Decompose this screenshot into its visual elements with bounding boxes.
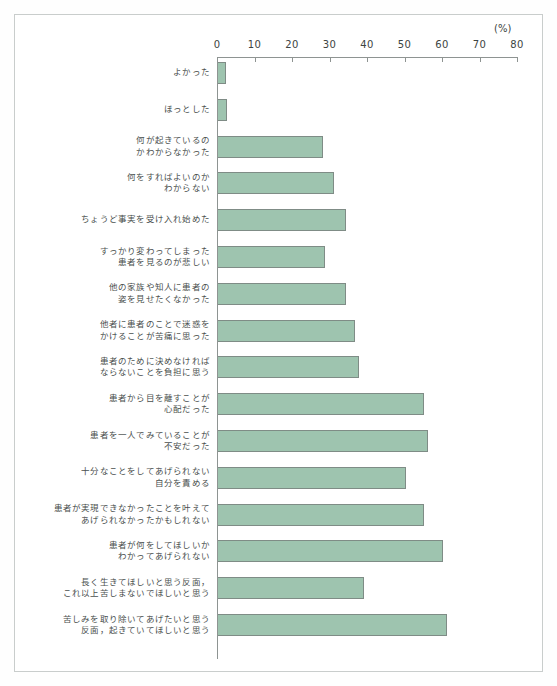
x-axis-tick-label: 80 [504, 39, 530, 50]
bar-category-label: 患者から目を離すことが 心配だった [20, 393, 210, 416]
x-axis-tick-label: 20 [279, 39, 305, 50]
bar-category-label: すっかり変わってしまった 患者を見るのが悲しい [20, 246, 210, 269]
bar-row: 何をすればよいのか わからない [0, 172, 557, 206]
bar-row: すっかり変わってしまった 患者を見るのが悲しい [0, 246, 557, 280]
bar-row: 患者を一人でみていることが 不安だった [0, 430, 557, 464]
bar-row: よかった [0, 62, 557, 96]
bar-row: 患者が実現できなかったことを叶えて あげられなかったかもしれない [0, 504, 557, 538]
bar [218, 99, 227, 121]
x-axis-tick-label: 10 [242, 39, 268, 50]
bar-category-label: ほっとした [20, 104, 210, 116]
chart-page: (%) 01020304050607080 よかったほっとした何が起きているの … [0, 0, 557, 686]
bar-row: 苦しみを取り除いてあげたいと思う 反面，起きていてほしいと思う [0, 614, 557, 648]
bar [218, 393, 424, 415]
bar [218, 430, 428, 452]
bar [218, 540, 443, 562]
bar [218, 504, 424, 526]
bar [218, 172, 334, 194]
bar-category-label: よかった [20, 67, 210, 79]
bar-category-label: 他者に患者のことで迷惑を かけることが苦痛に思った [20, 319, 210, 342]
bar-category-label: 長く生きてほしいと思う反面， これ以上苦しまないでほしいと思う [20, 577, 210, 600]
x-axis-tick-label: 0 [204, 39, 230, 50]
bar [218, 136, 323, 158]
bar-category-label: 患者のために決めなければ ならないことを負担に思う [20, 356, 210, 379]
axis-unit-label: (%) [494, 23, 511, 34]
bar-category-label: 十分なことをしてあげられない 自分を責める [20, 466, 210, 489]
bar-row: 患者が何をしてほしいか わかってあげられない [0, 540, 557, 574]
bar [218, 246, 325, 268]
bar-row: 何が起きているの かわからなかった [0, 136, 557, 170]
x-axis-tick-label: 30 [317, 39, 343, 50]
bar-category-label: ちょうど事実を受け入れ始めた [20, 214, 210, 226]
horizontal-bar-chart: (%) 01020304050607080 よかったほっとした何が起きているの … [0, 0, 557, 686]
bar-row: ちょうど事実を受け入れ始めた [0, 209, 557, 243]
bar [218, 614, 447, 636]
bar [218, 62, 226, 84]
bar-row: ほっとした [0, 99, 557, 133]
x-axis-tick-label: 40 [354, 39, 380, 50]
bar-row: 患者から目を離すことが 心配だった [0, 393, 557, 427]
bar [218, 283, 346, 305]
bar-row: 長く生きてほしいと思う反面， これ以上苦しまないでほしいと思う [0, 577, 557, 611]
bar [218, 577, 364, 599]
bar-category-label: 患者を一人でみていることが 不安だった [20, 430, 210, 453]
bar-category-label: 何をすればよいのか わからない [20, 172, 210, 195]
x-axis-tick-label: 70 [467, 39, 493, 50]
bar-row: 他者に患者のことで迷惑を かけることが苦痛に思った [0, 320, 557, 354]
bar [218, 209, 346, 231]
bar-row: 十分なことをしてあげられない 自分を責める [0, 467, 557, 501]
bar-category-label: 何が起きているの かわからなかった [20, 135, 210, 158]
x-axis-tick-label: 60 [429, 39, 455, 50]
bar-category-label: 患者が実現できなかったことを叶えて あげられなかったかもしれない [20, 503, 210, 526]
bar-category-label: 苦しみを取り除いてあげたいと思う 反面，起きていてほしいと思う [20, 614, 210, 637]
bar-category-label: 患者が何をしてほしいか わかってあげられない [20, 540, 210, 563]
bar-row: 他の家族や知人に患者の 姿を見せたくなかった [0, 283, 557, 317]
x-axis-tick-label: 50 [392, 39, 418, 50]
bar [218, 356, 359, 378]
bar-category-label: 他の家族や知人に患者の 姿を見せたくなかった [20, 282, 210, 305]
bar [218, 320, 355, 342]
bar [218, 467, 406, 489]
bar-row: 患者のために決めなければ ならないことを負担に思う [0, 356, 557, 390]
